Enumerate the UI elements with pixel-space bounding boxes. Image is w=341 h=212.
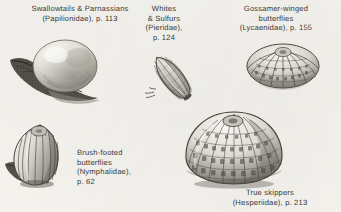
caption-pieridae-line1: Whites <box>120 4 208 14</box>
caption-pieridae-line4: p. 124 <box>120 33 208 43</box>
lycaenidae-egg-illustration <box>243 40 323 94</box>
caption-pieridae-line2: & Sulfurs <box>120 14 208 24</box>
caption-nymphalidae-line2: butterflies <box>77 158 177 168</box>
pieridae-egg-illustration <box>143 48 201 106</box>
papilionidae-egg-illustration <box>8 38 116 106</box>
hesperiidae-egg-illustration <box>180 108 288 190</box>
caption-nymphalidae: Brush-footed butterflies (Nymphalidae), … <box>77 148 177 186</box>
caption-pieridae: Whites & Sulfurs (Pieridae), p. 124 <box>120 4 208 42</box>
caption-pieridae-line3: (Pieridae), <box>120 23 208 33</box>
caption-lycaenidae-line2: butterflies <box>213 14 339 24</box>
nymphalidae-egg-illustration <box>4 122 76 190</box>
butterfly-egg-plate: Swallowtails & Parnassians (Papilionidae… <box>0 0 341 212</box>
caption-lycaenidae-line1: Gossamer-winged <box>213 4 339 14</box>
caption-lycaenidae: Gossamer-winged butterflies (Lycaenidae)… <box>213 4 339 33</box>
caption-hesperiidae-line1: True skippers <box>200 188 340 198</box>
caption-hesperiidae-line2: (Hesperiidae), p. 213 <box>200 198 340 208</box>
caption-lycaenidae-line3: (Lycaenidae), p. 155 <box>213 23 339 33</box>
caption-nymphalidae-line4: p. 62 <box>77 177 177 187</box>
caption-hesperiidae: True skippers (Hesperiidae), p. 213 <box>200 188 340 207</box>
caption-nymphalidae-line3: (Nymphalidae), <box>77 167 177 177</box>
caption-nymphalidae-line1: Brush-footed <box>77 148 177 158</box>
